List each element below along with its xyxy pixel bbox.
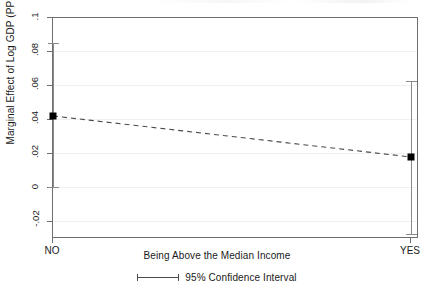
x-axis-title: Being Above the Median Income: [0, 250, 434, 261]
y-tick-text: 0: [29, 184, 40, 189]
y-tick-label-0.02: .02: [22, 146, 48, 157]
x-tick-mark-no: [52, 238, 53, 243]
y-tick-label-0.1: .1: [22, 11, 48, 22]
y-tick-label-0.06: .06: [22, 78, 48, 89]
capped-line-icon: [137, 273, 179, 282]
y-tick-text: .08: [30, 43, 41, 56]
y-tick-text: -.02: [30, 210, 41, 226]
y-tick-label--0.02: -.02: [22, 213, 48, 224]
ci-cap-lower-no: [48, 187, 59, 188]
y-tick-label-0: 0: [22, 181, 48, 192]
legend-label: 95% Confidence Interval: [185, 272, 296, 283]
y-tick-text: .04: [30, 111, 41, 124]
y-tick-text: .06: [30, 77, 41, 90]
ci-cap-upper-no: [48, 43, 59, 44]
ci-cap-upper-yes: [406, 81, 417, 82]
trend-line: [53, 18, 419, 239]
ci-cap-lower-yes: [406, 234, 417, 235]
legend: 95% Confidence Interval: [0, 272, 434, 283]
y-tick-label-0.08: .08: [22, 44, 48, 55]
y-tick-label-0.04: .04: [22, 112, 48, 123]
data-point-yes: [408, 154, 415, 161]
marginal-effects-plot: Marginal Effect of Log GDP (PPP) .1 .08 …: [0, 0, 434, 296]
x-tick-mark-yes: [410, 238, 411, 243]
y-tick-text: .02: [30, 145, 41, 158]
data-point-no: [50, 113, 57, 120]
scan-artifact: [150, 0, 410, 3]
y-tick-text: .1: [30, 13, 41, 21]
y-axis-title: Marginal Effect of Log GDP (PPP): [5, 0, 16, 168]
plot-area: [52, 17, 418, 238]
